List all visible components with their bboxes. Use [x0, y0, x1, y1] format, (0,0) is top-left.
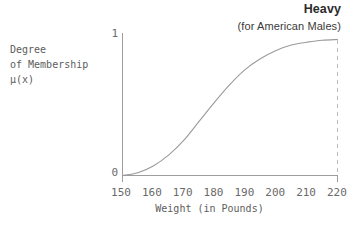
y-axis-label-line-3: μ(x)	[10, 72, 88, 87]
chart-subtitle: (for American Males)	[238, 21, 341, 32]
y-axis-label-line-2: of Membership	[10, 57, 88, 72]
x-axis-tick-label-170: 170	[172, 186, 194, 199]
y-axis-tick-label-0: 0	[104, 166, 118, 179]
chart-title-block: Heavy (for American Males)	[238, 3, 341, 32]
x-axis-tick-label-180: 180	[203, 186, 225, 199]
x-axis-tick-label-200: 200	[264, 186, 286, 199]
x-axis-tick-label-220: 220	[326, 186, 348, 199]
x-axis-tick-label-190: 190	[233, 186, 255, 199]
y-axis-label: Degree of Membership μ(x)	[10, 42, 88, 87]
x-axis-tick-label-150: 150	[110, 186, 132, 199]
fuzzy-membership-chart: Heavy (for American Males) Degree of Mem…	[0, 0, 355, 233]
y-axis-tick-label-1: 1	[104, 27, 118, 40]
y-axis-label-line-1: Degree	[10, 42, 88, 57]
x-axis-tick-label-160: 160	[141, 186, 163, 199]
membership-curve	[123, 40, 338, 176]
x-axis-tick-label-210: 210	[295, 186, 317, 199]
x-axis-tick-labels: 150 160 170 180 190 200 210 220	[110, 186, 348, 199]
x-axis-label: Weight (in Pounds)	[0, 203, 355, 214]
chart-title: Heavy	[238, 3, 341, 16]
